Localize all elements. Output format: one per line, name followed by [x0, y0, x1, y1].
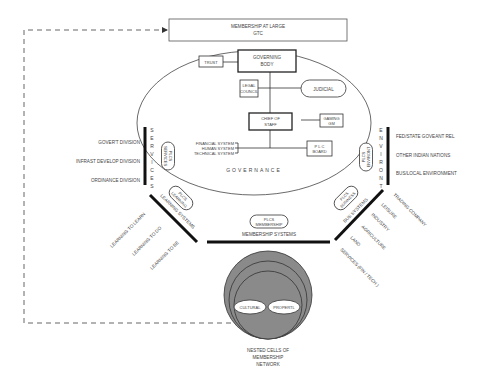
top-box-line1: MEMBERSHIP AT LARGE	[231, 24, 285, 29]
nested-cells-circles	[224, 251, 312, 339]
svg-text:BUS/LOCAL ENVIRONMENT: BUS/LOCAL ENVIRONMENT	[396, 171, 457, 176]
svg-text:STAFF: STAFF	[264, 122, 277, 127]
svg-text:NETWORK: NETWORK	[256, 362, 280, 367]
svg-text:LEARNING TO BE: LEARNING TO BE	[149, 240, 180, 271]
svg-text:LEARNING TO DO: LEARNING TO DO	[131, 225, 163, 257]
svg-text:TRADING COMPANY: TRADING COMPANY	[392, 192, 427, 227]
environment-items: FED/STATE GOVEANT REL OTHER INDIAN NATIO…	[396, 134, 457, 176]
svg-text:MEMBERSHIP: MEMBERSHIP	[253, 355, 284, 360]
svg-text:OTHER INDIAN NATIONS: OTHER INDIAN NATIONS	[396, 153, 450, 158]
governing-body-box[interactable]: GOVERNING BODY	[238, 50, 296, 72]
governance-label: GOVERNANCE	[226, 167, 282, 173]
membership-at-large-box[interactable]: MEMBERSHIP AT LARGE GTC	[169, 19, 347, 41]
services-items: GOVER'T DIVISION INFRAST DEVELOP DIVISIO…	[76, 140, 140, 183]
svg-text:GAMING: GAMING	[323, 116, 339, 121]
svg-text:S: S	[150, 183, 154, 189]
propertl-ellipse[interactable]: PROPERTL	[268, 300, 300, 314]
svg-text:GOVER'T DIVISION: GOVER'T DIVISION	[98, 140, 140, 145]
plcs-environt-pill[interactable]: PLCS ENVIRONT	[360, 143, 373, 171]
environment-vertical-label: E N V I R O N T	[379, 127, 383, 189]
svg-text:R: R	[379, 159, 383, 165]
chief-of-staff-box[interactable]: CHIEF OF STAFF	[249, 113, 292, 130]
svg-text:I: I	[151, 159, 152, 165]
legal-council-box[interactable]: LEGAL COUNCIL	[240, 80, 259, 97]
business-items: TRADING COMPANY LEISURE INDUSTRY AGRICUL…	[339, 192, 427, 288]
svg-text:INDUSTRY: INDUSTRY	[370, 212, 390, 232]
svg-text:LAND: LAND	[349, 235, 362, 248]
svg-text:PROPERTL: PROPERTL	[273, 305, 295, 310]
plcs-membership-pill[interactable]: PLCS MEMBERSHIP	[250, 215, 288, 228]
svg-text:R: R	[150, 143, 154, 149]
svg-text:GOVERNING: GOVERNING	[253, 55, 282, 60]
svg-text:CULTURAL: CULTURAL	[240, 305, 262, 310]
nested-caption: NESTED CELLS OF MEMBERSHIP NETWORK	[247, 348, 289, 367]
top-box-line2: GTC	[253, 31, 263, 36]
svg-text:V: V	[379, 143, 383, 149]
svg-text:GM: GM	[328, 121, 334, 126]
svg-text:SERVICES (FIN / TECH ): SERVICES (FIN / TECH )	[339, 247, 380, 288]
svg-text:NESTED CELLS OF: NESTED CELLS OF	[247, 348, 289, 353]
svg-text:C: C	[150, 167, 154, 173]
trust-box[interactable]: TRUST	[199, 56, 223, 67]
svg-text:CHIEF OF: CHIEF OF	[261, 116, 280, 121]
gaming-box[interactable]: GAMING GM	[320, 114, 343, 127]
svg-text:T: T	[379, 183, 382, 189]
svg-text:ENVIRONT: ENVIRONT	[366, 146, 371, 167]
svg-text:N: N	[379, 135, 383, 141]
svg-text:ORDINANCE DIVISION: ORDINANCE DIVISION	[91, 178, 140, 183]
svg-text:COUNCIL: COUNCIL	[240, 89, 259, 94]
svg-text:SERVICES: SERVICES	[163, 146, 168, 166]
judicial-pill[interactable]: JUDICIAL	[301, 80, 346, 97]
trust-label: TRUST	[204, 60, 218, 65]
svg-text:E: E	[379, 127, 383, 133]
svg-text:BOARD: BOARD	[312, 149, 326, 154]
svg-text:MEMBERSHIP: MEMBERSHIP	[256, 222, 283, 227]
svg-text:E: E	[150, 175, 154, 181]
svg-text:TECHNICAL SYSTEM: TECHNICAL SYSTEM	[194, 151, 234, 156]
svg-text:O: O	[379, 167, 383, 173]
svg-text:FED/STATE GOVEANT REL: FED/STATE GOVEANT REL	[396, 134, 455, 139]
svg-text:I: I	[380, 151, 381, 157]
svg-text:INFRAST DEVELOP DIVISION: INFRAST DEVELOP DIVISION	[76, 159, 140, 164]
diagram-canvas: MEMBERSHIP AT LARGE GTC GOVERNANCE TRUST…	[0, 0, 485, 386]
membership-systems-label: MEMBERSHIP SYSTEMS	[242, 232, 296, 237]
cultural-ellipse[interactable]: CULTURAL	[234, 300, 266, 314]
plc-board-box[interactable]: P L C BOARD	[307, 141, 332, 156]
svg-text:JUDICIAL: JUDICIAL	[313, 87, 334, 92]
svg-text:N: N	[379, 175, 383, 181]
plcs-services-pill[interactable]: PLCS SERVICES	[162, 142, 175, 170]
svg-text:LEISURE: LEISURE	[380, 202, 397, 219]
svg-text:LEGAL: LEGAL	[243, 83, 257, 88]
svg-text:P L C: P L C	[315, 144, 325, 149]
svg-text:BODY: BODY	[260, 62, 273, 67]
learning-items: LEARNING TO LEARN LEARNING TO DO LEARNIN…	[109, 212, 180, 271]
